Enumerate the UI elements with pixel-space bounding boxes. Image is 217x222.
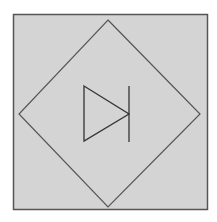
diagram-canvas xyxy=(0,0,217,222)
square-panel xyxy=(14,15,208,210)
diagram-svg xyxy=(0,0,217,222)
